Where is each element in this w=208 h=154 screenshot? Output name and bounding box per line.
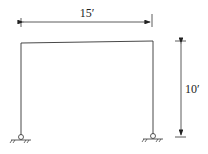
right-roller-support bbox=[142, 134, 163, 143]
span-dimension: 15′ bbox=[21, 6, 152, 27]
frame bbox=[21, 41, 153, 135]
span-label: 15′ bbox=[80, 6, 95, 20]
left-roller-support bbox=[10, 135, 31, 144]
frame-diagram: 15′ 10′ bbox=[0, 0, 208, 154]
height-dimension: 10′ bbox=[175, 41, 200, 137]
height-label: 10′ bbox=[185, 82, 200, 96]
